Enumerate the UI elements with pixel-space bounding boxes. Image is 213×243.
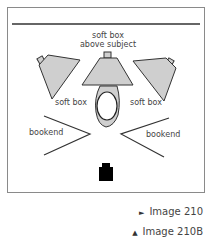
softbox-right-icon	[133, 58, 176, 101]
softbox-left-icon	[37, 55, 80, 99]
caption-text: Image 210B	[143, 226, 203, 237]
label-right-bookend: bookend	[146, 130, 180, 139]
caption-image-210b[interactable]: ▲Image 210B	[132, 226, 203, 237]
up-arrow-icon: ▲	[132, 229, 137, 237]
label-top-softbox-line2: above subject	[80, 40, 136, 49]
softbox-above-subject-icon	[82, 52, 133, 85]
subject-icon	[96, 86, 120, 127]
lighting-diagram: soft box above subject soft box soft box…	[0, 0, 213, 200]
caption-text: Image 210	[149, 206, 203, 217]
label-top-softbox-line1: soft box	[92, 31, 124, 40]
caption-image-210[interactable]: ►Image 210	[139, 206, 203, 217]
label-left-softbox: soft box	[55, 98, 87, 107]
play-arrow-icon: ►	[139, 209, 144, 217]
label-left-bookend: bookend	[29, 128, 63, 137]
label-right-softbox: soft box	[130, 98, 162, 107]
camera-icon	[99, 163, 113, 181]
